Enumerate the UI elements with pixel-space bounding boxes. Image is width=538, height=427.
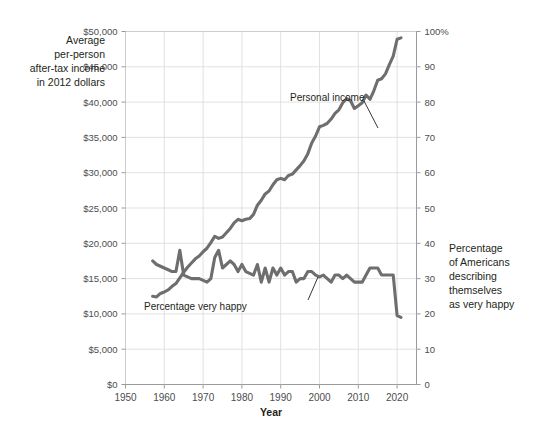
right-tick-label: 60 (425, 167, 436, 178)
left-tick-label: $35,000 (83, 132, 117, 143)
right-tick-label: 40 (425, 238, 436, 249)
x-axis-title: Year (260, 406, 282, 418)
left-tick-label: $10,000 (83, 308, 117, 319)
percentage-very-happy-annotation: Percentage very happy (144, 301, 247, 312)
chart-container: $0$5,000$10,000$15,000$20,000$25,000$30,… (0, 0, 538, 427)
right-axis-title-line-3: describing (449, 270, 497, 282)
right-tick-label: 90 (425, 61, 436, 72)
personal-income-annotation: Personal income (290, 92, 365, 103)
x-tick-label: 1950 (114, 392, 137, 403)
right-tick-label: 100% (425, 26, 450, 37)
left-axis-title-line-3: after-tax income (30, 62, 105, 74)
right-tick-label: 50 (425, 203, 436, 214)
right-tick-label: 30 (425, 273, 436, 284)
left-tick-label: $25,000 (83, 203, 117, 214)
income-vs-happiness-line-chart: $0$5,000$10,000$15,000$20,000$25,000$30,… (0, 0, 538, 427)
x-tick-label: 2000 (308, 392, 331, 403)
left-tick-label: $15,000 (83, 273, 117, 284)
right-tick-label: 20 (425, 308, 436, 319)
right-axis-title-line-2: of Americans (449, 256, 510, 268)
right-axis-title-line-4: themselves (449, 284, 502, 296)
right-tick-label: 0 (425, 379, 430, 390)
right-axis-title-line-1: Percentage (449, 242, 503, 254)
left-axis-title-line-2: per-person (54, 48, 105, 60)
x-tick-label: 2010 (347, 392, 370, 403)
left-axis-title-line-1: Average (66, 34, 105, 46)
left-tick-label: $5,000 (88, 344, 117, 355)
left-tick-label: $0 (107, 379, 118, 390)
x-tick-label: 2020 (386, 392, 409, 403)
left-tick-label: $40,000 (83, 97, 117, 108)
right-tick-label: 70 (425, 132, 436, 143)
left-tick-label: $30,000 (83, 167, 117, 178)
x-tick-label: 1970 (192, 392, 215, 403)
right-tick-label: 80 (425, 97, 436, 108)
x-tick-label: 1960 (153, 392, 176, 403)
left-tick-label: $20,000 (83, 238, 117, 249)
x-tick-label: 1990 (270, 392, 293, 403)
left-axis-title-line-4: in 2012 dollars (37, 76, 105, 88)
right-tick-label: 10 (425, 344, 436, 355)
x-tick-label: 1980 (231, 392, 254, 403)
right-axis-title-line-5: as very happy (449, 298, 515, 310)
